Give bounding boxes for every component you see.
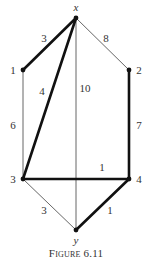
edge-weight-1-3: 6 <box>10 119 16 131</box>
node-4 <box>127 177 132 182</box>
node-label-3: 3 <box>10 173 16 185</box>
edge-weight-x-y: 10 <box>80 82 92 94</box>
edge-weight-x-1: 3 <box>41 32 47 44</box>
edge-weight-x-2: 8 <box>103 32 109 44</box>
edge-weight-3-4: 1 <box>99 161 105 173</box>
edge-4-y <box>76 179 129 230</box>
edge-weight-x-3: 4 <box>39 85 45 97</box>
node-x <box>74 16 79 21</box>
figure-caption: Figure 6.11 <box>0 247 152 259</box>
node-2 <box>127 68 132 73</box>
edge-x-2 <box>76 18 129 70</box>
node-1 <box>21 68 26 73</box>
node-label-2: 2 <box>136 64 142 76</box>
node-y <box>74 228 79 233</box>
node-3 <box>21 177 26 182</box>
edge-weight-4-y: 1 <box>107 204 113 216</box>
edge-3-y <box>23 179 76 230</box>
edges-layer <box>23 18 129 230</box>
node-label-x: x <box>73 1 79 13</box>
edge-weight-2-4: 7 <box>136 119 142 131</box>
edge-weight-3-y: 3 <box>41 204 47 216</box>
node-label-y: y <box>73 234 79 246</box>
weighted-graph-diagram: 3841067131x1234y <box>0 0 152 264</box>
node-label-4: 4 <box>136 173 142 185</box>
edge-x-3 <box>23 18 76 179</box>
node-label-1: 1 <box>10 64 16 76</box>
